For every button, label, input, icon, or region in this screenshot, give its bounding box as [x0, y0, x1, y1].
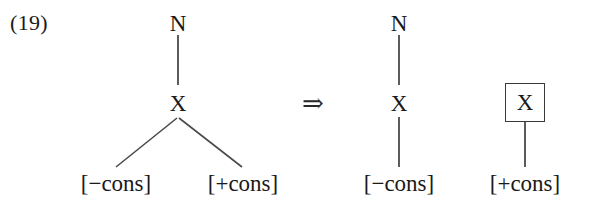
example-number: (19): [10, 10, 48, 36]
output-tree-leaf: [−cons]: [364, 171, 434, 196]
linguistics-tree-figure: (19) N X [−cons] [+cons] ⇒ N X [−cons] X…: [0, 0, 592, 207]
input-tree-right-leaf: [+cons]: [208, 171, 278, 196]
input-tree-intermediate-node: X: [170, 92, 187, 115]
detached-boxed-node: X: [505, 83, 545, 122]
input-tree-left-leaf: [−cons]: [81, 171, 151, 196]
input-edge-x-to-right-leaf: [179, 118, 242, 167]
input-tree-root-node: N: [170, 12, 187, 35]
input-edge-x-to-left-leaf: [116, 118, 177, 167]
derivation-arrow-icon: ⇒: [302, 91, 324, 117]
output-tree-intermediate-node: X: [391, 92, 408, 115]
output-tree-root-node: N: [391, 12, 408, 35]
detached-boxed-node-label: X: [517, 91, 534, 114]
detached-node-leaf: [+cons]: [490, 171, 560, 196]
